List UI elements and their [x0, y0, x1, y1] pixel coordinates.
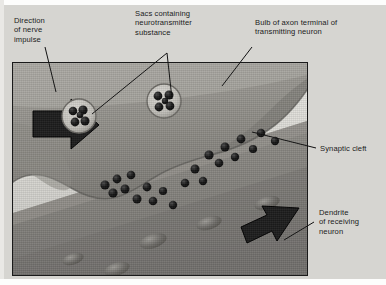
synapse-figure: Direction of nerve impulse Sacs containi… [0, 0, 386, 285]
label-bulb-of-axon-terminal: Bulb of axon terminal of transmitting ne… [255, 18, 377, 37]
label-direction-of-nerve-impulse: Direction of nerve impulse [14, 16, 84, 44]
label-dendrite-of-receiving-neuron: Dendrite of receiving neuron [319, 208, 385, 236]
page-bottom-margin [0, 279, 386, 285]
page-left-margin [0, 0, 4, 285]
synapse-illustration [13, 63, 307, 275]
synaptic-vesicle [147, 84, 181, 118]
label-synaptic-cleft: Synaptic cleft [320, 144, 384, 153]
illustration-frame [12, 62, 308, 276]
page-top-margin [0, 0, 386, 5]
synaptic-vesicle [62, 99, 96, 133]
label-sacs-containing-neurotransmitter: Sacs containing neurotransmitter substan… [135, 9, 231, 37]
